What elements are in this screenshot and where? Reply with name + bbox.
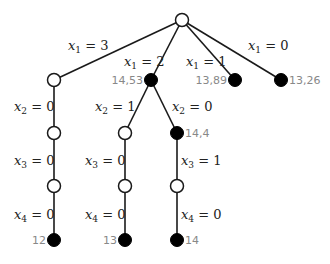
branch-node	[176, 14, 189, 27]
edge-label: x2 = 1	[95, 99, 136, 116]
branch-node	[171, 180, 184, 193]
node-value: 14,53	[112, 74, 144, 87]
tree-edge	[182, 20, 235, 80]
node-value: 14,4	[185, 127, 210, 140]
edge-label: x1 = 0	[248, 38, 289, 55]
leaf-node	[145, 74, 158, 87]
branch-node	[119, 127, 132, 140]
branch-node	[48, 180, 61, 193]
branch-node	[48, 127, 61, 140]
edge-label: x4 = 0	[14, 207, 55, 224]
tree-edge	[151, 20, 182, 80]
node-value: 12	[32, 234, 46, 247]
node-value: 13,26	[289, 74, 321, 87]
branch-node	[48, 74, 61, 87]
node-value: 14	[185, 234, 199, 247]
leaf-node	[171, 127, 184, 140]
leaf-node	[171, 234, 184, 247]
edge-label: x3 = 0	[14, 153, 55, 170]
search-tree-diagram: x1 = 3x1 = 2x1 = 1x1 = 0x2 = 0x2 = 1x2 =…	[0, 0, 330, 264]
edge-label: x2 = 0	[172, 99, 213, 116]
edge-label: x3 = 0	[85, 153, 126, 170]
edge-label: x1 = 2	[124, 54, 165, 71]
node-value: 13	[103, 234, 117, 247]
leaf-node	[229, 74, 242, 87]
branch-node	[119, 180, 132, 193]
leaf-node	[119, 234, 132, 247]
edge-label: x2 = 0	[14, 99, 55, 116]
edge-label: x4 = 0	[181, 207, 222, 224]
node-value: 13,89	[196, 74, 228, 87]
edge-label: x1 = 1	[186, 54, 227, 71]
edge-label: x1 = 3	[68, 38, 109, 55]
leaf-node	[48, 234, 61, 247]
leaf-node	[275, 74, 288, 87]
edge-label: x3 = 1	[181, 153, 222, 170]
edge-label: x4 = 0	[85, 207, 126, 224]
